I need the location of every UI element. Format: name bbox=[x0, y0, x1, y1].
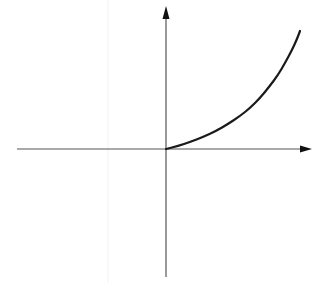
y-axis-arrow-icon bbox=[163, 6, 170, 19]
data-curve bbox=[166, 31, 300, 149]
y-axis bbox=[163, 6, 170, 277]
x-axis bbox=[17, 146, 312, 153]
x-axis-arrow-icon bbox=[300, 146, 312, 153]
chart-area bbox=[0, 0, 323, 283]
plot-svg bbox=[0, 0, 323, 283]
